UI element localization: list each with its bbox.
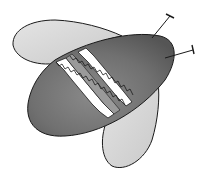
bee-illustration: bee (0, 0, 208, 180)
antenna-left (152, 14, 174, 38)
